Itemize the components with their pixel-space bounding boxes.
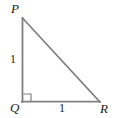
vertex-label-p: P xyxy=(11,2,19,15)
vertex-label-q: Q xyxy=(10,101,19,114)
side-length-label-qr: 1 xyxy=(59,102,65,114)
right-triangle-figure: P Q R 1 1 xyxy=(0,0,114,118)
right-angle-marker-icon xyxy=(24,94,32,102)
side-length-label-pq: 1 xyxy=(10,53,16,65)
vertex-label-r: R xyxy=(100,102,108,115)
hypotenuse-pr-line xyxy=(23,18,101,102)
